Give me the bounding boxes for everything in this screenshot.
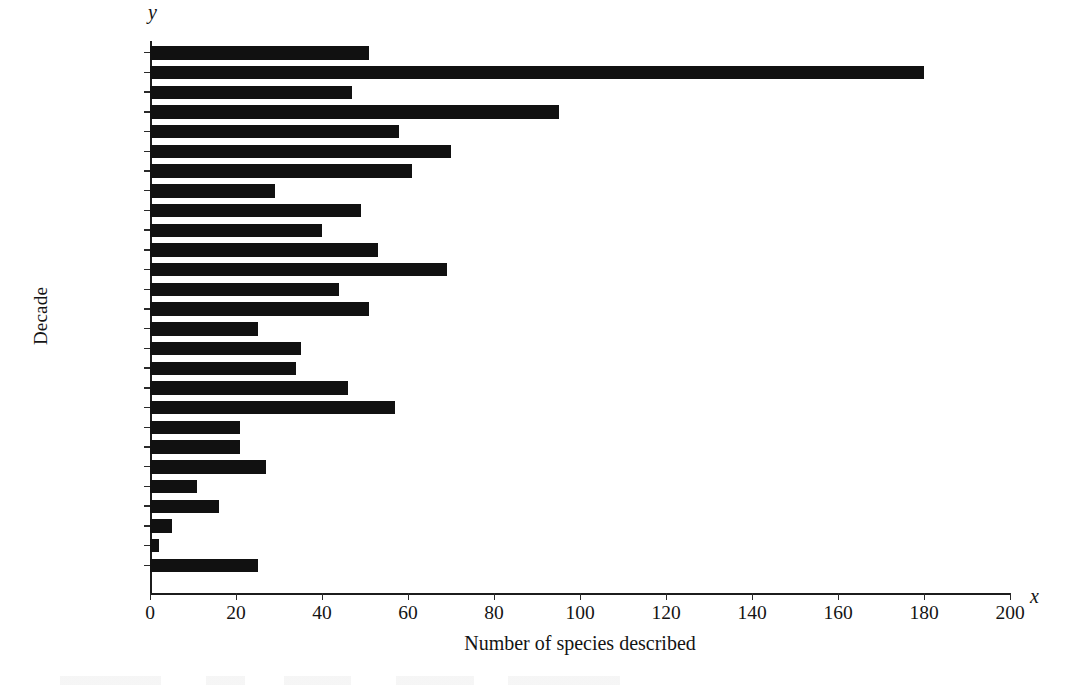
bar-row: 1990 to… bbox=[150, 82, 1010, 102]
bar-row: 1920 to… bbox=[150, 220, 1010, 240]
x-axis-tick-label: 120 bbox=[626, 603, 706, 623]
scan-artifact bbox=[60, 676, 620, 685]
x-axis-tick bbox=[1010, 593, 1011, 600]
bar-row: 1880 to… bbox=[150, 299, 1010, 319]
y-axis-symbol: y bbox=[148, 2, 157, 22]
bar-row: 2010 to… bbox=[150, 43, 1010, 63]
bar bbox=[150, 539, 159, 552]
bar bbox=[150, 283, 339, 296]
bar bbox=[150, 125, 399, 138]
bar bbox=[150, 342, 301, 355]
bar-row: 1980 to… bbox=[150, 102, 1010, 122]
bar-row: 2000 to… bbox=[150, 63, 1010, 83]
bar-row: 1770 to… bbox=[150, 516, 1010, 536]
x-axis-tick bbox=[494, 593, 495, 600]
bar-row: 1860 to… bbox=[150, 339, 1010, 359]
bar bbox=[150, 519, 172, 532]
bar bbox=[150, 381, 348, 394]
x-axis-tick bbox=[236, 593, 237, 600]
bar bbox=[150, 440, 240, 453]
bar bbox=[150, 243, 378, 256]
bar-row: 1910 to… bbox=[150, 240, 1010, 260]
x-axis-tick-label: 140 bbox=[712, 603, 792, 623]
bar-row: 1800 to… bbox=[150, 457, 1010, 477]
x-axis-tick bbox=[752, 593, 753, 600]
bar-row: 1810 to… bbox=[150, 437, 1010, 457]
x-axis-tick bbox=[838, 593, 839, 600]
bar-row: 1830 to… bbox=[150, 398, 1010, 418]
bar-row: 1950 to… bbox=[150, 161, 1010, 181]
bar-row: 1780 to… bbox=[150, 496, 1010, 516]
bar bbox=[150, 86, 352, 99]
x-axis-tick bbox=[408, 593, 409, 600]
bar-row: 1960 to… bbox=[150, 142, 1010, 162]
bar bbox=[150, 204, 361, 217]
bar-row: 1870 to… bbox=[150, 319, 1010, 339]
x-axis-title: Number of species described bbox=[150, 632, 1010, 655]
x-axis-tick-label: 20 bbox=[196, 603, 276, 623]
plot-area: 2010 to…2000 to…1990 to…1980 to…1970 to…… bbox=[150, 41, 1010, 593]
x-axis-tick-label: 100 bbox=[540, 603, 620, 623]
bar-chart-figure: y x Decade Number of species described 2… bbox=[0, 0, 1077, 692]
bar-row: 1750 to… bbox=[150, 556, 1010, 576]
bar bbox=[150, 500, 219, 513]
bar bbox=[150, 105, 559, 118]
bar-row: 1970 to… bbox=[150, 122, 1010, 142]
bar-row: 1790 to… bbox=[150, 477, 1010, 497]
bar bbox=[150, 401, 395, 414]
x-axis-tick bbox=[150, 593, 151, 600]
x-axis-tick-label: 60 bbox=[368, 603, 448, 623]
x-axis-tick bbox=[322, 593, 323, 600]
bar-row: 1930 to… bbox=[150, 201, 1010, 221]
bar-row: 1940 to… bbox=[150, 181, 1010, 201]
bar bbox=[150, 263, 447, 276]
y-axis-title: Decade bbox=[30, 271, 52, 361]
bar bbox=[150, 460, 266, 473]
bar-row: 1890 to… bbox=[150, 280, 1010, 300]
x-axis-tick-label: 180 bbox=[884, 603, 964, 623]
x-axis-tick-label: 80 bbox=[454, 603, 534, 623]
bar bbox=[150, 66, 924, 79]
x-axis-tick-label: 160 bbox=[798, 603, 878, 623]
bar bbox=[150, 559, 258, 572]
x-axis-tick-label: 40 bbox=[282, 603, 362, 623]
bar bbox=[150, 46, 369, 59]
bar-row: 1840 to… bbox=[150, 378, 1010, 398]
bar-row: 1760 to… bbox=[150, 536, 1010, 556]
x-axis-tick bbox=[924, 593, 925, 600]
bar-row: 1850 to… bbox=[150, 358, 1010, 378]
x-axis-tick bbox=[666, 593, 667, 600]
bar bbox=[150, 145, 451, 158]
bar bbox=[150, 184, 275, 197]
bar bbox=[150, 164, 412, 177]
bar bbox=[150, 421, 240, 434]
bar bbox=[150, 302, 369, 315]
x-axis-tick-label: 200 bbox=[970, 603, 1050, 623]
bar-row: 1900 to… bbox=[150, 260, 1010, 280]
x-axis-tick bbox=[580, 593, 581, 600]
bar bbox=[150, 480, 197, 493]
bar-row: 1820 to… bbox=[150, 418, 1010, 438]
bar bbox=[150, 322, 258, 335]
bar bbox=[150, 224, 322, 237]
x-axis-tick-label: 0 bbox=[110, 603, 190, 623]
bar bbox=[150, 362, 296, 375]
